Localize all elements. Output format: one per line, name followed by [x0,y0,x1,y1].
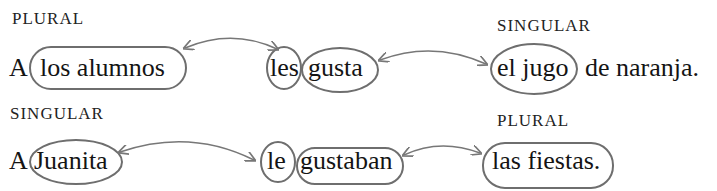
row1-right-number-label: SINGULAR [497,17,591,34]
row1-pronoun: les [270,55,299,81]
row1-rest: de naranja. [585,55,699,81]
row1-arrow-subject-pronoun [185,38,277,49]
row2-pronoun: le [267,148,286,174]
row2-arrow-subject-pronoun [120,142,254,160]
row2-right-number-label: PLURAL [497,112,569,129]
row1-subject: los alumnos [40,55,165,81]
row2-verb: gustaban [300,148,392,174]
row2-subject: Juanita [34,148,108,174]
row1-left-number-label: PLURAL [12,10,84,27]
row1-preposition: A [9,55,28,81]
row1-object: el jugo [497,55,569,81]
row2-left-number-label: SINGULAR [10,105,104,122]
row1-arrow-verb-object [380,51,486,64]
row1-verb: gusta [308,55,363,81]
row2-object: las fiestas. [492,148,600,174]
row2-arrow-verb-object [404,146,480,155]
row2-preposition: A [9,148,28,174]
